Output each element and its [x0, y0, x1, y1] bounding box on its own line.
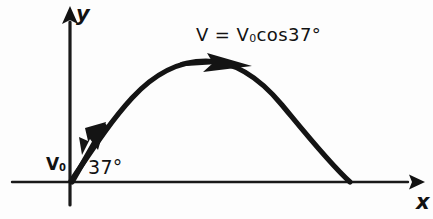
initial-velocity-symbol: V [46, 154, 59, 174]
horizontal-velocity-equation: V = V0cos37° [196, 26, 321, 44]
projectile-motion-diagram: y x V0 37° V = V0cos37° [0, 0, 433, 219]
x-axis-label: x [416, 192, 430, 213]
initial-velocity-label: V0 [46, 156, 66, 173]
initial-velocity-subscript: 0 [59, 162, 66, 173]
x-axis-arrowhead [409, 175, 425, 190]
equation-subscript: 0 [249, 32, 256, 45]
launch-angle-label: 37° [88, 158, 123, 177]
equation-left-side: V = V [196, 24, 249, 45]
equation-right-side: cos37° [257, 24, 322, 45]
y-axis-label: y [76, 4, 90, 25]
